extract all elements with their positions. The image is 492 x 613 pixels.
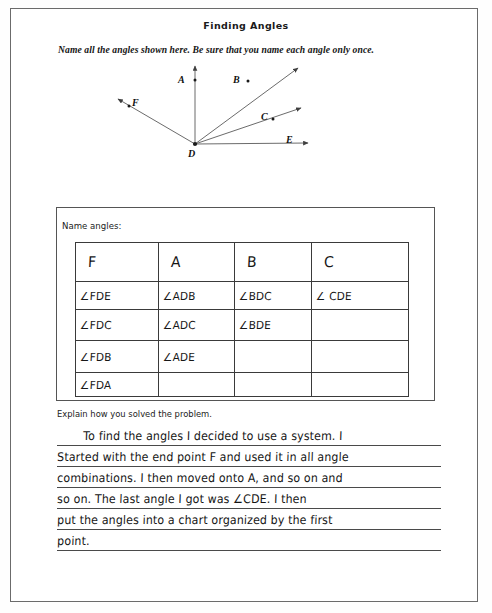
rule-line-6: [57, 550, 441, 551]
ray-DB: [195, 68, 298, 144]
point-F: [128, 105, 131, 108]
label-C: C: [261, 111, 268, 122]
column-header-a: A: [159, 243, 235, 282]
instruction-text: Name all the angles shown here. Be sure …: [58, 44, 458, 55]
name-angles-label: Name angles:: [62, 221, 121, 231]
worksheet-page: Finding Angles Name all the angles shown…: [0, 0, 492, 613]
rule-line-1: [57, 445, 441, 446]
label-A: A: [178, 74, 185, 85]
label-F: F: [132, 97, 139, 108]
cell-c-2[interactable]: [312, 310, 409, 341]
cell-a-4[interactable]: [159, 373, 235, 397]
table-row: ∠FDB ∠ADE: [76, 341, 409, 373]
cell-b-2[interactable]: ∠BDE: [235, 310, 312, 341]
label-E: E: [286, 134, 293, 145]
cell-a-3[interactable]: ∠ADE: [159, 341, 235, 373]
column-header-b: B: [235, 243, 312, 282]
explanation-area[interactable]: To find the angles I decided to use a sy…: [57, 424, 441, 562]
cell-c-1[interactable]: ∠ CDE: [312, 282, 409, 310]
rule-line-2: [57, 466, 441, 467]
explain-prompt: Explain how you solved the problem.: [57, 409, 212, 419]
table-row: ∠FDE ∠ADB ∠BDC ∠ CDE: [76, 282, 409, 310]
cell-c-4[interactable]: [312, 373, 409, 397]
column-header-f: F: [76, 243, 159, 282]
table-row: ∠FDA: [76, 373, 409, 397]
explanation-line-5: put the angles into a chart organized by…: [57, 513, 447, 527]
cell-f-4[interactable]: ∠FDA: [76, 373, 159, 397]
explanation-line-1: To find the angles I decided to use a sy…: [57, 429, 447, 443]
rule-line-4: [57, 508, 441, 509]
cell-b-1[interactable]: ∠BDC: [235, 282, 312, 310]
angle-diagram-svg: [100, 58, 350, 170]
cell-f-3[interactable]: ∠FDB: [76, 341, 159, 373]
page-title: Finding Angles: [0, 20, 492, 31]
cell-b-4[interactable]: [235, 373, 312, 397]
point-B: [247, 80, 250, 83]
label-B: B: [233, 74, 240, 85]
cell-c-3[interactable]: [312, 341, 409, 373]
explanation-line-4: so on. The last angle I got was ∠CDE. I …: [57, 492, 447, 506]
point-A: [194, 79, 197, 82]
ray-group: [118, 66, 308, 144]
explanation-line-3: combinations. I then moved onto A, and s…: [57, 471, 447, 485]
rule-line-5: [57, 529, 441, 530]
point-C: [272, 118, 275, 121]
vertex-point-D: [193, 142, 197, 146]
cell-f-2[interactable]: ∠FDC: [76, 310, 159, 341]
angle-table: F A B C ∠FDE ∠ADB ∠BDC ∠ CDE ∠FDC ∠ADC ∠…: [75, 242, 409, 397]
cell-a-2[interactable]: ∠ADC: [159, 310, 235, 341]
angle-diagram: A B C D E F: [100, 58, 350, 170]
label-D: D: [188, 148, 195, 159]
column-header-c: C: [312, 243, 409, 282]
table-header-row: F A B C: [76, 243, 409, 282]
cell-f-1[interactable]: ∠FDE: [76, 282, 159, 310]
explanation-line-2: Started with the end point F and used it…: [57, 450, 447, 464]
table-row: ∠FDC ∠ADC ∠BDE: [76, 310, 409, 341]
cell-b-3[interactable]: [235, 341, 312, 373]
rule-line-3: [57, 487, 441, 488]
cell-a-1[interactable]: ∠ADB: [159, 282, 235, 310]
explanation-line-6: point.: [57, 534, 447, 548]
